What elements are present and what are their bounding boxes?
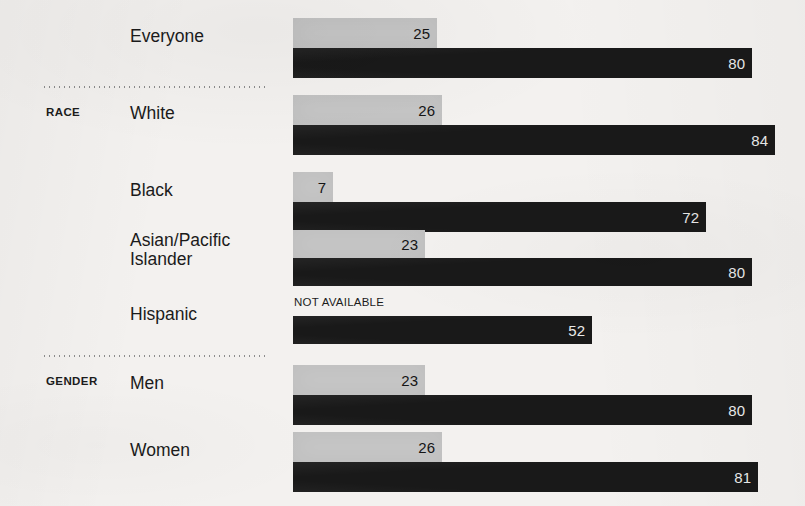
bar-value-gray-women: 26 <box>418 440 435 455</box>
bar-gray-black: 7 <box>293 172 333 202</box>
bar-dark-black: 72 <box>293 202 706 232</box>
row-label-everyone: Everyone <box>130 27 204 46</box>
chart-plot-area: RACE GENDER Everyone 25 80 White 26 84 B… <box>0 0 805 506</box>
bar-gray-white: 26 <box>293 95 442 125</box>
bar-value-dark-black: 72 <box>682 210 699 225</box>
bar-gray-men: 23 <box>293 365 425 395</box>
bar-dark-hispanic: 52 <box>293 316 592 344</box>
row-label-women: Women <box>130 441 190 460</box>
bar-value-dark-women: 81 <box>734 470 751 485</box>
bar-value-dark-men: 80 <box>728 403 745 418</box>
bar-value-gray-white: 26 <box>418 103 435 118</box>
bar-gray-everyone: 25 <box>293 18 437 48</box>
bar-gray-asian-pacific-islander: 23 <box>293 230 425 258</box>
row-label-white: White <box>130 104 175 123</box>
divider-gender <box>42 355 268 357</box>
row-label-men: Men <box>130 374 164 393</box>
bar-dark-everyone: 80 <box>293 48 752 78</box>
bar-dark-men: 80 <box>293 395 752 425</box>
bar-gray-women: 26 <box>293 432 442 462</box>
bar-value-gray-everyone: 25 <box>413 26 430 41</box>
bar-dark-women: 81 <box>293 462 758 492</box>
bar-value-dark-white: 84 <box>751 133 768 148</box>
chart-figure: RACE GENDER Everyone 25 80 White 26 84 B… <box>0 0 805 506</box>
row-label-asian-pacific-islander: Asian/Pacific Islander <box>130 231 230 269</box>
bar-value-dark-everyone: 80 <box>728 56 745 71</box>
bar-dark-white: 84 <box>293 125 775 155</box>
group-label-race: RACE <box>46 106 80 118</box>
row-label-hispanic: Hispanic <box>130 305 197 324</box>
bar-value-dark-hispanic: 52 <box>568 323 585 338</box>
bar-value-gray-men: 23 <box>401 373 418 388</box>
group-label-gender: GENDER <box>46 375 98 387</box>
divider-race <box>42 86 268 88</box>
bar-value-gray-black: 7 <box>318 180 326 195</box>
row-label-black: Black <box>130 181 173 200</box>
bar-value-dark-asian-pacific-islander: 80 <box>728 265 745 280</box>
bar-value-gray-asian-pacific-islander: 23 <box>401 237 418 252</box>
not-available-label: NOT AVAILABLE <box>294 296 384 308</box>
bar-dark-asian-pacific-islander: 80 <box>293 258 752 286</box>
